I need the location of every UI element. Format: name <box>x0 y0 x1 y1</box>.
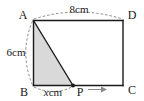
vertex-label-b: B <box>20 85 28 99</box>
vertex-label-c: C <box>128 83 136 97</box>
point-p-dot <box>71 84 75 88</box>
measure-label-bottom: xcm <box>43 86 63 98</box>
measure-label-left: 6cm <box>7 46 26 58</box>
geometry-canvas: A D B C P 8cm 6cm xcm <box>0 0 144 101</box>
geometry-figure: A D B C P 8cm 6cm xcm <box>0 0 144 101</box>
dimension-arc-left <box>26 21 33 85</box>
measure-label-top: 8cm <box>70 3 89 15</box>
vertex-label-a: A <box>19 8 28 22</box>
measure-label-bottom-unit: cm <box>49 86 63 98</box>
motion-arrow-head <box>101 87 107 93</box>
vertex-label-d: D <box>128 8 137 22</box>
vertex-label-p: P <box>77 85 84 99</box>
